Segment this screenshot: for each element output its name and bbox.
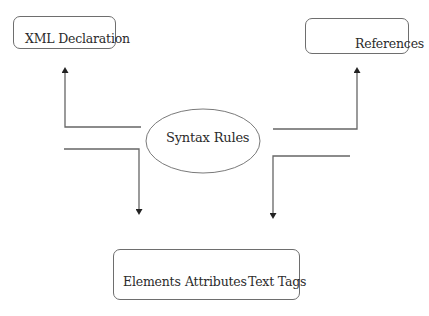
arrow-to-components-left (64, 149, 139, 212)
xml-declaration-label: XML Declaration (25, 31, 130, 46)
arrow-to-components-right (273, 156, 350, 216)
diagram-canvas: Syntax Rules XML Declaration References … (0, 0, 429, 316)
components-label-attributes: Attributes (185, 274, 247, 289)
components-label-elements: Elements (123, 274, 181, 289)
references-label: References (355, 36, 424, 51)
arrow-to-references (273, 70, 357, 129)
arrow-to-xml-declaration (65, 70, 141, 127)
syntax-rules-label: Syntax Rules (166, 130, 249, 145)
components-label-text-tags: Text Tags (248, 274, 306, 289)
